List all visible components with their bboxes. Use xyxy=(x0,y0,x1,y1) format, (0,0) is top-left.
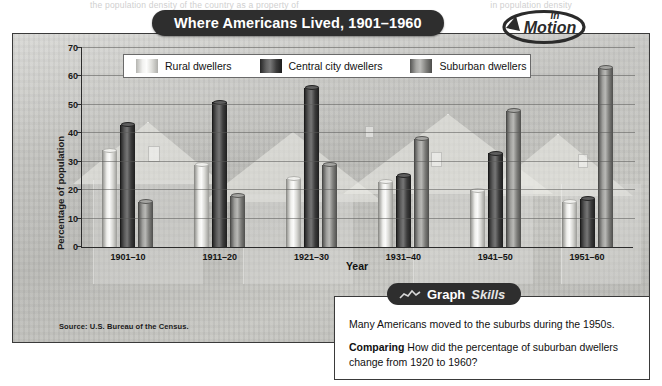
bar-cap xyxy=(195,162,209,167)
bar-cap xyxy=(581,196,595,201)
x-axis-title: Year xyxy=(81,260,633,272)
bar-suburban xyxy=(322,165,337,247)
legend-swatch-suburban-icon xyxy=(410,59,432,73)
bar-central xyxy=(120,125,135,247)
graph-skills-word-graph: Graph xyxy=(427,287,465,302)
bar-suburban xyxy=(138,202,153,247)
y-gridline xyxy=(82,104,635,105)
bar-central xyxy=(580,199,595,247)
graph-skills-body: Many Americans moved to the suburbs duri… xyxy=(335,311,649,379)
in-motion-label: In Motion xyxy=(510,11,590,36)
legend-label-central-city: Central city dwellers xyxy=(289,60,383,72)
bar-cap xyxy=(121,122,135,127)
legend-label-rural: Rural dwellers xyxy=(165,60,232,72)
bar-cap xyxy=(507,108,521,113)
y-tick-label: 0 xyxy=(73,242,78,252)
y-gridline xyxy=(82,218,635,219)
chart-title-banner: Where Americans Lived, 1901–1960 xyxy=(152,10,444,36)
bar-central xyxy=(304,88,319,247)
graph-skills-word-skills: Skills xyxy=(471,287,505,302)
bar-cap xyxy=(489,151,503,156)
y-tick-label: 20 xyxy=(68,185,78,195)
y-tick-label: 10 xyxy=(68,214,78,224)
source-note: Source: U.S. Bureau of the Census. xyxy=(59,322,189,331)
plot-area-wrapper: Percentage of population 1901–101911–201… xyxy=(47,48,633,270)
chart-legend: Rural dwellers Central city dwellers Sub… xyxy=(123,54,531,78)
bar-central xyxy=(396,176,411,247)
legend-item-rural: Rural dwellers xyxy=(136,59,232,73)
bar-cap xyxy=(231,193,245,198)
plot-area: 1901–101911–201921–301931–401941–501951–… xyxy=(81,48,633,248)
bar-cap xyxy=(305,85,319,90)
bar-rural xyxy=(378,182,393,247)
legend-swatch-rural-icon xyxy=(136,59,158,73)
bar-cap xyxy=(415,136,429,141)
bar-rural xyxy=(562,202,577,247)
y-tick-label: 60 xyxy=(68,71,78,81)
bar-cap xyxy=(379,179,393,184)
bar-central xyxy=(488,153,503,247)
bar-suburban xyxy=(414,139,429,247)
bar-central xyxy=(212,102,227,247)
bar-suburban xyxy=(230,196,245,247)
bar-cap xyxy=(103,148,117,153)
legend-item-suburban: Suburban dwellers xyxy=(410,59,526,73)
graph-skills-callout: Graph Skills Many Americans moved to the… xyxy=(334,296,650,380)
y-tick-label: 50 xyxy=(68,100,78,110)
graph-skills-question: Comparing How did the percentage of subu… xyxy=(349,340,635,370)
bar-rural xyxy=(470,190,485,247)
y-gridline xyxy=(82,132,635,133)
y-gridline xyxy=(82,161,635,162)
in-motion-logo[interactable]: In Motion xyxy=(486,4,598,46)
mini-chart-icon xyxy=(399,289,421,300)
bar-cap xyxy=(563,199,577,204)
legend-label-suburban: Suburban dwellers xyxy=(439,60,526,72)
in-motion-line2: Motion xyxy=(510,20,590,36)
graph-skills-question-lead: Comparing xyxy=(349,341,404,353)
graph-skills-tab: Graph Skills xyxy=(387,283,521,305)
bar-cap xyxy=(139,199,153,204)
bar-cap xyxy=(287,176,301,181)
graph-skills-statement: Many Americans moved to the suburbs duri… xyxy=(349,317,635,332)
bar-suburban xyxy=(506,111,521,247)
y-gridline xyxy=(82,189,635,190)
legend-swatch-central-city-icon xyxy=(260,59,282,73)
y-tick-label: 40 xyxy=(68,128,78,138)
bar-cap xyxy=(599,65,613,70)
legend-item-central-city: Central city dwellers xyxy=(260,59,383,73)
y-tick-label: 70 xyxy=(68,43,78,53)
bar-suburban xyxy=(598,68,613,247)
y-gridline xyxy=(82,47,635,48)
bar-cap xyxy=(397,173,411,178)
bar-rural xyxy=(102,150,117,247)
bar-cap xyxy=(323,162,337,167)
bar-rural xyxy=(194,165,209,247)
y-tick-label: 30 xyxy=(68,157,78,167)
